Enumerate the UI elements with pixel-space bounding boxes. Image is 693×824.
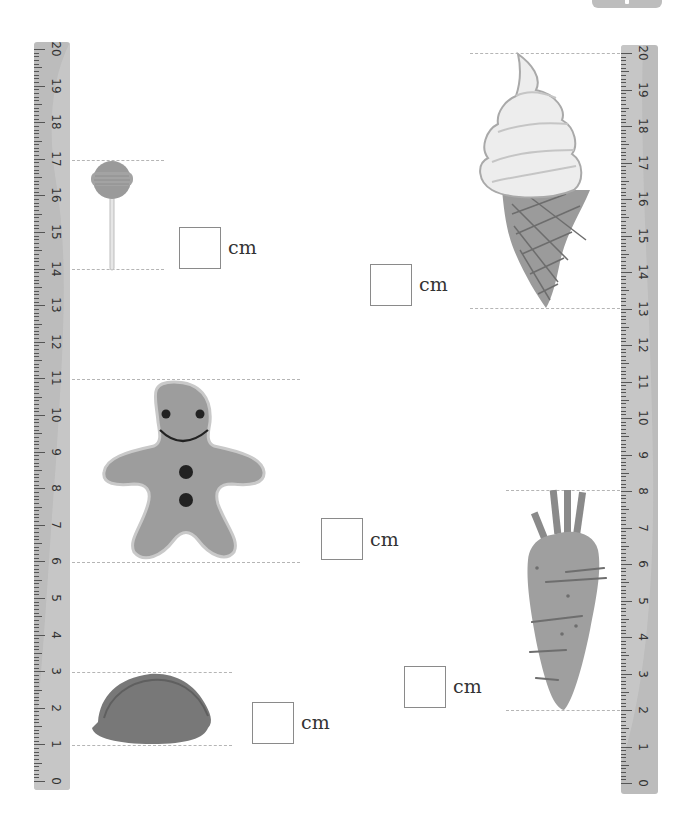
ruler-tick bbox=[34, 591, 39, 592]
ruler-tick bbox=[621, 688, 626, 689]
ruler-tick bbox=[34, 517, 39, 518]
ruler-tick bbox=[34, 236, 39, 237]
ruler-tick bbox=[34, 675, 39, 676]
ruler-tick bbox=[34, 704, 39, 705]
ruler-tick bbox=[621, 374, 626, 375]
ruler-tick bbox=[621, 137, 626, 138]
ruler-tick bbox=[34, 657, 39, 658]
ruler-tick bbox=[621, 86, 626, 87]
ruler-number: 16 bbox=[637, 189, 649, 209]
ruler-tick bbox=[34, 561, 45, 562]
ruler-tick bbox=[621, 568, 626, 569]
ruler-tick bbox=[34, 690, 42, 691]
ruler-tick bbox=[34, 243, 39, 244]
ruler-tick bbox=[34, 660, 39, 661]
carrot-image bbox=[526, 490, 614, 712]
ruler-tick bbox=[621, 79, 626, 80]
ruler-number: 5 bbox=[637, 591, 649, 611]
gingerbread-answer-box[interactable] bbox=[321, 518, 363, 560]
ruler-tick bbox=[621, 352, 626, 353]
ruler-tick bbox=[621, 714, 626, 715]
ruler-tick bbox=[621, 465, 626, 466]
ruler-tick bbox=[34, 367, 39, 368]
ruler-tick bbox=[621, 294, 626, 295]
ruler-tick bbox=[621, 528, 632, 529]
ruler-tick bbox=[34, 331, 39, 332]
ruler-tick bbox=[621, 111, 626, 112]
ruler-tick bbox=[621, 290, 629, 291]
ruler-tick bbox=[34, 510, 39, 511]
ruler-tick bbox=[34, 210, 39, 211]
ruler-tick bbox=[621, 64, 626, 65]
ruler-tick bbox=[34, 616, 42, 617]
ruler-tick bbox=[621, 195, 626, 196]
ruler-tick bbox=[621, 637, 632, 638]
ruler-tick bbox=[34, 430, 39, 431]
ruler-tick bbox=[621, 385, 626, 386]
ruler-tick bbox=[34, 173, 39, 174]
ruler-tick bbox=[34, 697, 39, 698]
ruler-number: 7 bbox=[50, 515, 62, 535]
ruler-tick bbox=[34, 671, 45, 672]
ruler-tick bbox=[621, 159, 626, 160]
ruler-tick bbox=[621, 217, 629, 218]
ruler-tick bbox=[621, 754, 626, 755]
ruler-tick bbox=[621, 757, 626, 758]
ruler-tick bbox=[34, 583, 39, 584]
ruler-tick bbox=[621, 349, 626, 350]
ruler-tick bbox=[621, 590, 626, 591]
ruler-tick bbox=[34, 130, 39, 131]
ruler-tick bbox=[34, 360, 42, 361]
ruler-tick bbox=[34, 474, 39, 475]
ruler-tick bbox=[621, 338, 626, 339]
ruler-tick bbox=[621, 411, 626, 412]
lollipop-answer-box[interactable] bbox=[179, 227, 221, 269]
ruler-tick bbox=[621, 641, 626, 642]
ruler-tick bbox=[621, 144, 629, 145]
ruler-tick bbox=[34, 309, 39, 310]
ruler-tick bbox=[34, 144, 39, 145]
ruler-tick bbox=[621, 133, 626, 134]
ruler-tick bbox=[34, 565, 39, 566]
carrot-unit-label: cm bbox=[453, 675, 482, 697]
ruler-tick bbox=[621, 268, 626, 269]
ruler-tick bbox=[621, 257, 626, 258]
ruler-tick bbox=[621, 232, 626, 233]
ruler-tick bbox=[621, 155, 626, 156]
carrot-answer-box[interactable] bbox=[404, 666, 446, 708]
ruler-tick bbox=[621, 732, 626, 733]
ruler-tick bbox=[621, 203, 626, 204]
ruler-tick bbox=[34, 148, 39, 149]
ruler-tick bbox=[621, 648, 626, 649]
ruler-tick bbox=[621, 184, 626, 185]
dumpling-answer-box[interactable] bbox=[252, 702, 294, 744]
ruler-tick bbox=[34, 770, 39, 771]
ruler-tick bbox=[621, 221, 626, 222]
ruler-tick bbox=[34, 668, 39, 669]
ruler-tick bbox=[34, 382, 39, 383]
ruler-tick bbox=[621, 779, 626, 780]
ruler-number: 18 bbox=[637, 116, 649, 136]
ruler-tick bbox=[34, 192, 39, 193]
ruler-tick bbox=[621, 586, 626, 587]
ruler-tick bbox=[34, 708, 45, 709]
ruler-tick bbox=[621, 75, 626, 76]
ruler-tick bbox=[34, 122, 45, 123]
left-ruler: 01234567891011121314151617181920 bbox=[34, 42, 70, 790]
ruler-tick bbox=[34, 199, 39, 200]
ruler-tick bbox=[621, 243, 626, 244]
ruler-tick bbox=[34, 250, 42, 251]
ruler-tick bbox=[621, 571, 626, 572]
ruler-tick bbox=[34, 550, 39, 551]
ruler-tick bbox=[34, 170, 39, 171]
ruler-tick bbox=[34, 115, 39, 116]
ruler-tick bbox=[621, 181, 629, 182]
ruler-tick bbox=[621, 604, 626, 605]
ruler-tick bbox=[34, 108, 39, 109]
ruler-tick bbox=[621, 100, 626, 101]
ruler-tick bbox=[621, 367, 626, 368]
icecream-answer-box[interactable] bbox=[370, 264, 412, 306]
ruler-tick bbox=[621, 319, 626, 320]
ruler-number: 3 bbox=[637, 664, 649, 684]
ruler-tick bbox=[621, 582, 629, 583]
